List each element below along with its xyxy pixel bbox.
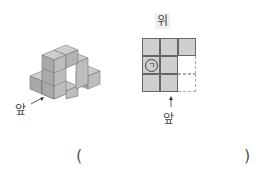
front-up-arrow-icon <box>168 96 174 108</box>
cube-stack-figure <box>28 38 104 100</box>
marker-giyeok: ㄱ <box>145 59 158 72</box>
answer-close-paren: ) <box>244 146 250 165</box>
top-view-front-label: 앞 <box>163 109 174 126</box>
grid-cell-1-1 <box>160 56 178 74</box>
grid-cell-2-2-empty <box>178 74 196 92</box>
grid-cell-1-2-empty <box>178 56 196 74</box>
cube-front-label: 앞 <box>15 100 26 117</box>
isometric-cubes-icon <box>28 38 104 100</box>
grid-cell-0-1 <box>160 38 178 56</box>
grid-cell-0-2 <box>178 38 196 56</box>
answer-open-paren: ( <box>76 146 82 165</box>
grid-cell-2-0 <box>142 74 160 92</box>
grid-cell-2-1 <box>160 74 178 92</box>
grid-cell-0-0 <box>142 38 160 56</box>
answer-blank[interactable] <box>90 146 240 166</box>
front-arrow-icon <box>30 96 46 106</box>
top-view-top-label: 위 <box>155 13 170 29</box>
grid-cell-1-0: ㄱ <box>142 56 160 74</box>
